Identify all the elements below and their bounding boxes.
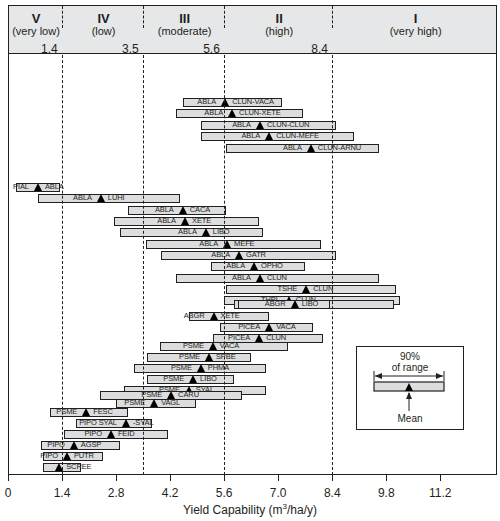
bar-label-left: PSME: [171, 363, 192, 372]
class-boundary-line: [224, 55, 225, 475]
class-label: (very low): [9, 25, 63, 38]
bar-label-right: LIBO: [200, 374, 217, 383]
bar-label-right: XETE: [192, 216, 211, 225]
class-label: (moderate): [144, 25, 225, 38]
x-tick: [386, 475, 387, 481]
legend-mean-label: Mean: [357, 413, 463, 424]
class-numeral: V: [9, 12, 63, 25]
range-bar: PIALABLA: [16, 183, 60, 192]
x-tick-label: 4.2: [162, 486, 179, 500]
class-v: V(very low): [9, 12, 63, 38]
bar-label-right: LUHI: [108, 193, 125, 202]
bar-label-left: TSHE: [278, 284, 298, 293]
x-tick: [170, 475, 171, 481]
bar-label-right: CLUN-XETE: [239, 108, 281, 117]
mean-marker-icon: [34, 183, 42, 191]
x-tick-label: 1.4: [54, 486, 71, 500]
range-bar: ABLAMEFE: [146, 240, 320, 249]
bar-label-right: CACA: [190, 205, 210, 214]
range-bar: ABLAOPHO: [211, 262, 305, 271]
bar-label-right: LIBO: [213, 227, 230, 236]
bar-label-left: PSME: [179, 352, 200, 361]
range-bar: ABLACLUN: [176, 274, 379, 283]
range-bar: PSMESPBE: [147, 353, 251, 362]
class-numeral: II: [225, 12, 333, 25]
bar-label-right: AGSP: [81, 440, 101, 449]
bar-label-right: FEID: [118, 429, 135, 438]
x-tick: [8, 475, 9, 481]
bar-label-left: PIPO SYAL: [79, 418, 117, 427]
mean-marker-icon: [202, 228, 210, 236]
class-numeral: I: [333, 12, 498, 25]
bar-label-right: CLUN: [313, 284, 333, 293]
mean-marker-icon: [256, 274, 264, 282]
range-bar: ABLAGATR: [161, 251, 336, 260]
mean-marker-icon: [150, 399, 158, 407]
range-bar: ABGRXETE: [189, 312, 268, 321]
x-tick: [332, 475, 333, 481]
mean-marker-icon: [97, 194, 105, 202]
x-tick-label: 0: [5, 486, 12, 500]
range-bar: TSHECLUN: [226, 285, 396, 294]
bar-label-right: OPHO: [261, 261, 283, 270]
x-tick-label: 8.4: [324, 486, 341, 500]
range-bar: PIPOAGSP: [41, 441, 120, 450]
bar-label-left: ABGR: [265, 299, 286, 308]
mean-marker-icon: [181, 217, 189, 225]
range-bar: ABLAXETE: [114, 217, 259, 226]
bar-label-left: ABLA: [226, 261, 245, 270]
bar-label-right: VAGL: [161, 398, 180, 407]
mean-marker-icon: [255, 334, 263, 342]
yield-capability-chart: V(very low)IV(low)III(moderate)II(high)I…: [0, 0, 500, 521]
class-boundary-line: [62, 55, 63, 475]
x-tick-label: 11.2: [429, 486, 451, 500]
x-tick-label: 2.8: [108, 486, 125, 500]
class-i: I(very high): [333, 12, 498, 38]
mean-marker-icon: [265, 323, 273, 331]
bar-label-left: ABLA: [197, 97, 216, 106]
bar-label-left: ABGR: [184, 311, 205, 320]
mean-marker-icon: [235, 251, 243, 259]
class-label: (high): [225, 25, 333, 38]
range-bar: ABLACLUN-ARNU: [226, 144, 378, 153]
x-tick-label: 7.0: [270, 486, 287, 500]
mean-marker-icon: [250, 262, 258, 270]
x-axis-label: Yield Capability (m3/ha/y): [0, 502, 500, 517]
range-bar: ABGRLIBO: [238, 300, 331, 309]
mean-marker-icon: [197, 364, 205, 372]
range-bar: PICEAVACA: [220, 323, 313, 332]
x-tick-label: 5.6: [216, 486, 233, 500]
range-bar: PSMEPHMA: [134, 364, 266, 373]
bar-label-right: VACA: [220, 341, 239, 350]
x-tick-label: 9.8: [378, 486, 395, 500]
class-boundary-line: [143, 55, 144, 475]
mean-marker-icon: [256, 121, 264, 129]
x-tick: [62, 475, 63, 481]
bar-label-right: CLUN-CLUN: [267, 120, 309, 129]
bar-label-right: CARU: [178, 390, 199, 399]
bar-label-right: LIBO: [302, 299, 319, 308]
bar-label-left: ABLA: [157, 216, 176, 225]
mean-marker-icon: [205, 353, 213, 361]
bar-label-left: PICEA: [238, 322, 260, 331]
mean-marker-icon: [189, 375, 197, 383]
bar-label-left: PSME: [56, 407, 77, 416]
bar-label-right: CLUN-VACA: [232, 97, 274, 106]
bar-label-left: PSME: [124, 398, 145, 407]
bar-label-right: MEFE: [234, 239, 254, 248]
mean-marker-icon: [209, 342, 217, 350]
range-bar: ABLALUHI: [38, 194, 180, 203]
mean-marker-icon: [63, 452, 71, 460]
bar-label-left: ABLA: [73, 193, 92, 202]
class-ii: II(high): [225, 12, 333, 38]
class-boundary-line: [332, 55, 333, 475]
mean-marker-icon: [82, 408, 90, 416]
class-boundary-line-header: [224, 6, 225, 28]
legend: 90% of range Mean: [356, 346, 464, 430]
class-label: (low): [63, 25, 144, 38]
bar-label-left: ABLA: [232, 273, 251, 282]
mean-marker-icon: [265, 132, 273, 140]
range-bar: ABLACLUN-CLUN: [201, 121, 336, 130]
range-bar: ABLALIBO: [120, 228, 263, 237]
range-bar: ABLACLUN-VACA: [183, 98, 282, 107]
